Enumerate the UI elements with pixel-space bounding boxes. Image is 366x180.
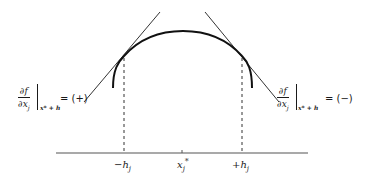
right-denominator: ∂xj xyxy=(277,98,289,111)
right-eval-point: x* + h xyxy=(298,104,318,111)
left-denominator-sub: j xyxy=(28,104,30,111)
left-fraction: ∂f ∂xj xyxy=(18,86,30,111)
minus-h-text: −h xyxy=(114,159,129,170)
x-star-sub: j xyxy=(183,165,185,173)
tick-label-minus-h: −hj xyxy=(114,160,131,173)
left-denominator: ∂xj xyxy=(18,98,30,111)
minus-h-sub: j xyxy=(129,165,131,173)
right-fraction: ∂f ∂xj xyxy=(277,86,289,111)
left-eval-point: x* + h xyxy=(40,104,60,111)
tick-label-x-star: xj* xyxy=(177,158,189,173)
left-sign: = (+) xyxy=(60,93,88,104)
concave-function-diagram xyxy=(0,0,366,180)
right-sign: = (−) xyxy=(325,93,353,104)
right-eval-bar xyxy=(296,84,297,110)
tick-label-plus-h: +hj xyxy=(232,160,249,173)
left-denominator-text: ∂x xyxy=(18,99,28,109)
x-star-sup: * xyxy=(185,157,189,166)
left-eval-bar xyxy=(37,84,38,110)
right-numerator: ∂f xyxy=(277,86,289,98)
right-denominator-sub: j xyxy=(287,104,289,111)
right-denominator-text: ∂x xyxy=(277,99,287,109)
left-numerator: ∂f xyxy=(18,86,30,98)
concave-curve xyxy=(113,31,252,88)
plus-h-sub: j xyxy=(247,165,249,173)
plus-h-text: +h xyxy=(232,159,247,170)
